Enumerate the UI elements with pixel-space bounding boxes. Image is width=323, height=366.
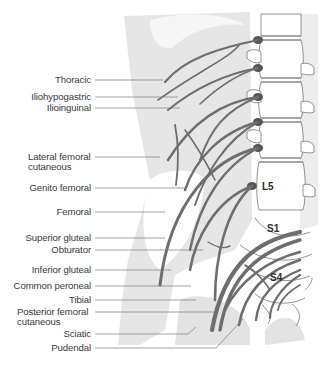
label-tibial: Tibial (69, 295, 91, 305)
label-lateral-femoral-cutaneous-line2: cutaneous (28, 162, 91, 172)
vertebra-label-s1: S1 (267, 223, 279, 234)
label-lateral-femoral-cutaneous: Lateral femoral cutaneous (28, 152, 91, 172)
label-common-peroneal: Common peroneal (14, 281, 91, 291)
label-posterior-femoral-cutaneous-line2: cutaneous (17, 317, 88, 327)
label-ilioinguinal: Ilioinguinal (47, 103, 91, 113)
vertebra-label-l5: L5 (262, 181, 274, 192)
label-iliohypogastric: Iliohypogastric (31, 92, 91, 102)
label-inferior-gluteal: Inferior gluteal (32, 265, 91, 275)
lumbosacral-plexus-diagram: Thoracic Iliohypogastric Ilioinguinal La… (0, 0, 323, 366)
label-obturator: Obturator (51, 245, 91, 255)
label-genito-femoral: Genito femoral (29, 183, 91, 193)
label-posterior-femoral-cutaneous: Posterior femoral cutaneous (17, 307, 88, 327)
vertebra-label-s4: S4 (270, 272, 282, 283)
label-sciatic: Sciatic (63, 329, 91, 339)
label-superior-gluteal: Superior gluteal (25, 233, 91, 243)
label-pudendal: Pudendal (51, 343, 91, 353)
label-femoral: Femoral (57, 207, 92, 217)
label-thoracic: Thoracic (55, 75, 91, 85)
